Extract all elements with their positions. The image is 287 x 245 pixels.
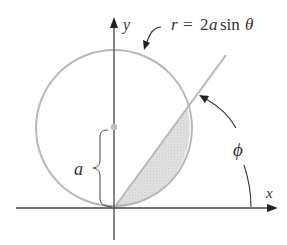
y-axis-label: y bbox=[121, 16, 131, 34]
center-dot bbox=[111, 124, 118, 131]
svg-text:θ: θ bbox=[245, 15, 253, 34]
angle-arc-upper bbox=[206, 99, 236, 128]
angle-arrowhead-icon bbox=[199, 95, 209, 103]
x-axis-label: x bbox=[265, 185, 273, 201]
svg-text:=: = bbox=[183, 15, 193, 34]
ray-line bbox=[114, 55, 226, 208]
angle-label: ϕ bbox=[233, 139, 243, 160]
radius-brace bbox=[93, 130, 112, 207]
equation-label: r = 2 a sin θ bbox=[171, 15, 253, 34]
svg-text:a: a bbox=[209, 15, 218, 34]
y-axis-arrow-icon bbox=[110, 17, 118, 28]
x-axis-arrow-icon bbox=[267, 204, 278, 212]
radius-label: a bbox=[74, 159, 83, 179]
polar-diagram: y x r = 2 a sin θ a ϕ bbox=[0, 0, 287, 245]
curve-pointer-arrowhead-icon bbox=[143, 40, 150, 50]
angle-arc bbox=[244, 165, 251, 207]
svg-text:sin: sin bbox=[220, 15, 240, 34]
svg-text:r: r bbox=[171, 15, 178, 34]
svg-text:2: 2 bbox=[200, 15, 209, 34]
curve-pointer-arrow bbox=[147, 27, 161, 42]
